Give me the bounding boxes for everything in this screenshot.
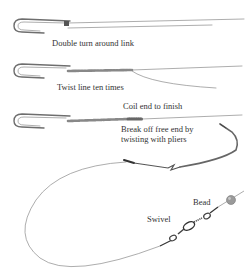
step-1-wire-loop <box>14 19 244 33</box>
step-1-label: Double turn around link <box>52 38 134 48</box>
hook-rig <box>25 124 237 267</box>
swivel-icon <box>160 207 218 246</box>
bead-icon <box>218 191 244 207</box>
step-3-label: Coil end to finish <box>123 101 182 111</box>
step-2-label: Twist line ten times <box>57 82 124 92</box>
step-2-wire-twist <box>14 64 242 88</box>
step-4-label-line-1: Break off free end by <box>121 124 194 134</box>
swivel-label: Swivel <box>147 214 171 224</box>
step-4-label-line-2: twisting with pliers <box>121 134 187 144</box>
bead-label: Bead <box>193 197 210 207</box>
